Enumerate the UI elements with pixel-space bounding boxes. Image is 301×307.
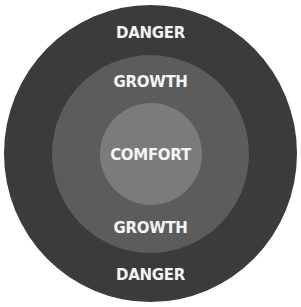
growth-label-bottom: GROWTH bbox=[0, 220, 301, 236]
growth-label-top: GROWTH bbox=[0, 74, 301, 90]
danger-label-bottom: DANGER bbox=[0, 267, 301, 283]
comfort-label: COMFORT bbox=[0, 147, 301, 163]
danger-label-top: DANGER bbox=[0, 25, 301, 41]
